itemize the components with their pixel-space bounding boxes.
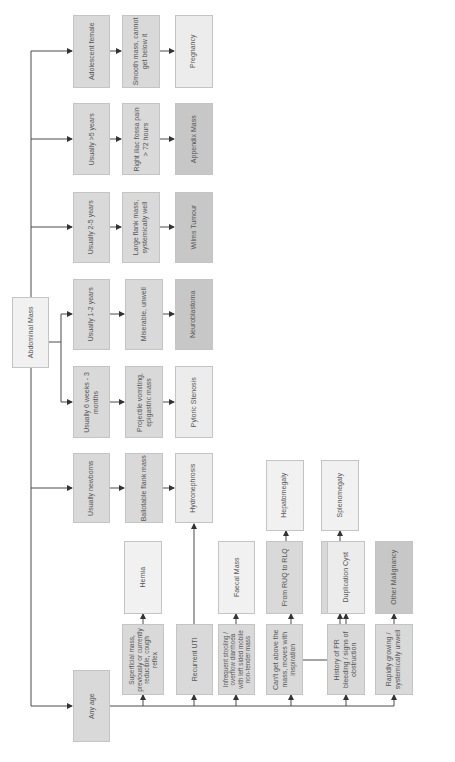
finding-label: Large flank mass, systemically well: [133, 200, 150, 255]
finding-box-superficial-mass: Superficial mass, previously or currentl…: [122, 624, 164, 695]
age-box-adolescent: Adolescent female: [73, 15, 110, 88]
finding-label: Can't get above the mass, moves with ins…: [272, 629, 298, 690]
finding-box-flank-mass: Large flank mass, systemically well: [122, 192, 160, 263]
age-box-newborns: Usually newborns: [73, 453, 110, 523]
root-box: Abdominal Mass: [12, 297, 49, 368]
diagnosis-box-faecal-mass: Faecal Mass: [218, 541, 255, 614]
finding-label: Smooth mass, cannot get below it: [133, 18, 150, 86]
diagnosis-box-hepatomegaly: Hepatomegaly: [266, 460, 304, 531]
finding-box-recurrent-uti: Recurrent UTI: [176, 624, 213, 695]
finding-box-rif-pain: Right iliac fossa pain > 72 hours: [122, 103, 160, 175]
age-label: Usually >5 years: [87, 113, 96, 165]
diagnosis-box-hydronephrosis: Hydronephrosis: [175, 453, 213, 523]
diagnosis-label: Duplication Cyst: [342, 552, 351, 603]
diagnosis-box-hernia: Hernia: [124, 541, 162, 614]
route-box-ruq-rlq: From RUQ to RLQ: [266, 541, 303, 614]
finding-box-ballotable: Ballotable flank mass: [125, 453, 163, 523]
finding-box-smooth-mass: Smooth mass, cannot get below it: [122, 15, 160, 88]
diagnosis-label: Pyloric Stenosis: [190, 377, 199, 427]
diagnosis-label: Hepatomegaly: [281, 473, 290, 518]
diagnosis-label: Neuroblastoma: [190, 291, 199, 338]
age-box-2-5: Usually 2-5 years: [73, 192, 110, 263]
diagnosis-label: Hydronephrosis: [190, 463, 199, 512]
diagnosis-duplication-cyst: Duplication Cyst: [327, 541, 365, 614]
diagnosis-label: Hernia: [139, 567, 148, 588]
age-box-any-age: Any age: [73, 670, 110, 742]
finding-label: Right iliac fossa pain > 72 hours: [133, 107, 150, 171]
finding-box-projectile-vomiting: Projectile vomiting, epigastric mass: [125, 366, 163, 438]
diagnosis-label: Appendix Mass: [190, 115, 199, 163]
diagnosis-label: Splenomegaly: [336, 473, 345, 517]
finding-label: Projectile vomiting, epigastric mass: [136, 373, 153, 432]
diagnosis-label: Pregnancy: [190, 35, 199, 68]
finding-box-infrequent-stooling: Infrequent stooling / overflow diarrhoea…: [218, 624, 255, 695]
age-label: Usually newborns: [87, 460, 96, 515]
finding-label: Rapidly growing / systemically unwell: [386, 630, 403, 690]
finding-box-miserable: Miserable, unwell: [125, 279, 163, 350]
finding-label: Recurrent UTI: [190, 638, 199, 682]
diagnosis-label: Faecal Mass: [232, 558, 241, 598]
root-label: Abdominal Mass: [26, 307, 35, 359]
finding-box-pr-bleeding: History of PR bleeding / signs of obstru…: [327, 624, 365, 695]
finding-label: Miserable, unwell: [140, 287, 149, 341]
age-box-6wk-3mo: Usually 6 weeks - 3 months: [73, 366, 110, 438]
finding-label: Superficial mass, previously or currentl…: [128, 628, 158, 692]
diagnosis-box-pregnancy: Pregnancy: [175, 15, 213, 88]
finding-label: Ballotable flank mass: [140, 455, 149, 521]
finding-label: History of PR bleeding / signs of obstru…: [333, 631, 359, 687]
diagnosis-label: Other Malignancy: [390, 550, 399, 605]
diagnosis-label: Wilms Tumour: [190, 205, 199, 250]
age-label: Usually 2-5 years: [87, 200, 96, 254]
diagnosis-box-appendix-mass: Appendix Mass: [175, 103, 213, 175]
diagnosis-box-splenomegaly: Splenomegaly: [321, 460, 359, 531]
diagnosis-box-pyloric-stenosis: Pyloric Stenosis: [175, 366, 213, 438]
diagnosis-box-other-malignancy: Other Malignancy: [375, 541, 413, 614]
age-label: Usually 1-2 years: [87, 287, 96, 341]
age-box-over-5: Usually >5 years: [73, 103, 110, 175]
age-box-1-2: Usually 1-2 years: [73, 279, 110, 350]
finding-box-rapidly-growing: Rapidly growing / systemically unwell: [375, 624, 413, 695]
route-label: From RUQ to RLQ: [280, 549, 289, 607]
diagnosis-box-neuroblastoma: Neuroblastoma: [175, 279, 213, 350]
diagnosis-box-wilms: Wilms Tumour: [175, 192, 213, 263]
age-label: Usually 6 weeks - 3 months: [83, 372, 100, 433]
age-label: Adolescent female: [87, 23, 96, 81]
age-label: Any age: [87, 693, 96, 719]
finding-box-cant-get-above: Can't get above the mass, moves with ins…: [266, 624, 303, 695]
finding-label: Infrequent stooling / overflow diarrhoea…: [222, 630, 251, 688]
